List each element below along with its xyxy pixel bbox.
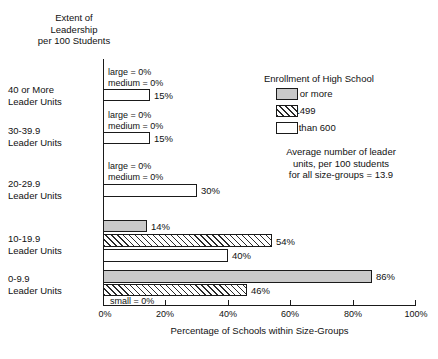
legend-item-1500-or-more: 1500 or more	[276, 88, 333, 99]
chart-title-line3: per 100 Students	[18, 35, 130, 47]
legend-swatch-large-icon	[276, 88, 298, 100]
bar-g5-medium	[103, 284, 247, 296]
value-label-g1-small: 15%	[154, 90, 173, 101]
legend-swatch-small-icon	[276, 122, 298, 134]
category-label-line1: 40 or More	[8, 84, 100, 96]
value-label-g3-small: 30%	[201, 185, 220, 196]
average-note-line3: for all size-groups = 13.9	[252, 169, 430, 181]
zero-note-g2-large: large = 0%	[108, 110, 186, 121]
category-label-line2: Leader Units	[8, 96, 100, 108]
x-axis-ticklabel-20: 20%	[153, 309, 177, 319]
x-axis-ticklabel-0: 0%	[95, 309, 115, 319]
bar-chart: Extent of Leadership per 100 Students 40…	[0, 0, 438, 359]
category-label-0-9: 0-9.9 Leader Units	[8, 273, 100, 296]
x-axis-tick-40	[228, 300, 229, 305]
x-axis-tick-60	[290, 300, 291, 305]
bar-g4-small	[103, 249, 228, 262]
average-note-line2: units, per 100 students	[252, 158, 430, 170]
x-axis-ticklabel-80: 80%	[341, 309, 365, 319]
zero-note-g2-medium: medium = 0%	[108, 121, 186, 132]
chart-title: Extent of Leadership per 100 Students	[18, 12, 130, 47]
category-label-line1: 30-39.9	[8, 125, 100, 137]
x-axis-ticklabel-60: 60%	[278, 309, 302, 319]
zero-note-g3-medium: medium = 0%	[108, 172, 186, 183]
category-label-line2: Leader Units	[8, 137, 100, 149]
x-axis-tick-80	[353, 300, 354, 305]
category-label-line2: Leader Units	[8, 245, 100, 257]
average-note: Average number of leader units, per 100 …	[252, 146, 430, 181]
zero-note-g3-large: large = 0%	[108, 161, 186, 172]
value-label-g5-medium: 46%	[251, 285, 270, 296]
bar-g1-small	[103, 89, 150, 101]
category-label-40-or-more: 40 or More Leader Units	[8, 84, 100, 107]
chart-title-line1: Extent of	[18, 12, 130, 24]
x-axis-ticklabel-40: 40%	[216, 309, 240, 319]
x-axis-tick-100	[415, 300, 416, 305]
zero-note-g1-medium: medium = 0%	[108, 78, 186, 89]
category-label-30-39: 30-39.9 Leader Units	[8, 125, 100, 148]
x-axis-ticklabel-100: 100%	[401, 309, 431, 319]
value-label-g2-small: 15%	[154, 133, 173, 144]
category-label-line1: 20-29.9	[8, 178, 100, 190]
value-label-g4-large: 14%	[151, 221, 170, 232]
legend-item-less-than-600: Less than 600	[276, 122, 336, 133]
x-axis-line	[103, 305, 416, 306]
category-label-line1: 0-9.9	[8, 273, 100, 285]
bar-g3-small	[103, 184, 197, 197]
bar-g2-small	[103, 132, 150, 144]
average-note-line1: Average number of leader	[252, 146, 430, 158]
legend-item-600-1499: 600 1499	[276, 105, 316, 116]
category-label-20-29: 20-29.9 Leader Units	[8, 178, 100, 201]
chart-title-line2: Leadership	[18, 24, 130, 36]
category-label-line2: Leader Units	[8, 190, 100, 202]
value-label-g4-small: 40%	[232, 250, 251, 261]
value-label-g5-large: 86%	[376, 271, 395, 282]
value-label-g4-medium: 54%	[276, 236, 295, 247]
x-axis-tick-20	[165, 300, 166, 305]
category-label-line2: Leader Units	[8, 285, 100, 297]
legend-title: Enrollment of High School	[264, 73, 424, 84]
bar-g4-large	[103, 220, 147, 232]
bar-g5-large	[103, 270, 372, 283]
category-label-line1: 10-19.9	[8, 233, 100, 245]
category-label-10-19: 10-19.9 Leader Units	[8, 233, 100, 256]
zero-note-g1-large: large = 0%	[108, 67, 186, 78]
legend-swatch-medium-icon	[276, 105, 298, 117]
x-axis-title: Percentage of Schools within Size-Groups	[103, 325, 416, 336]
bar-g4-medium	[103, 234, 272, 247]
